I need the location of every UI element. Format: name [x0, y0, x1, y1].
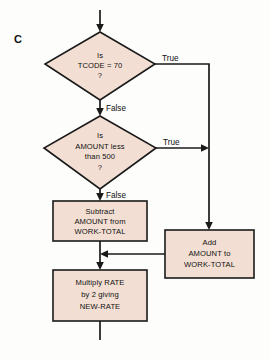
decision-amount-line-4: ? — [98, 163, 102, 172]
decision-amount-line-1: Is — [97, 131, 103, 140]
process-multiply-line-2: by 2 giving — [81, 290, 118, 299]
node-decision-tcode[interactable]: Is TCODE = 70 ? — [45, 32, 155, 100]
edge-label-tcode-false: False — [106, 104, 126, 113]
connector-bus-to-add — [205, 140, 213, 230]
node-process-multiply[interactable]: Multiply RATE by 2 giving NEW-RATE — [53, 270, 147, 321]
edge-label-amount-false: False — [106, 191, 126, 200]
process-multiply-line-1: Multiply RATE — [76, 278, 125, 287]
edge-label-amount-true: True — [163, 138, 180, 147]
decision-amount-line-2: AMOUNT less — [75, 142, 125, 151]
connector-subtract-down — [96, 241, 104, 270]
connector-tcode-false — [96, 100, 104, 116]
decision-amount-line-3: than 500 — [85, 152, 115, 161]
flowchart-diagram: Is TCODE = 70 ? Is AMOUNT less than 500 … — [0, 0, 270, 359]
flowchart-canvas: Is TCODE = 70 ? Is AMOUNT less than 500 … — [0, 0, 270, 359]
panel-label: C — [14, 33, 22, 45]
process-add-line-2: AMOUNT to — [188, 249, 230, 258]
process-add-line-3: WORK-TOTAL — [184, 260, 235, 269]
connector-entry — [96, 10, 104, 32]
process-add-line-1: Add — [203, 238, 217, 247]
process-subtract-line-1: Subtract — [85, 207, 115, 216]
decision-tcode-line-1: Is — [97, 51, 103, 60]
edge-label-tcode-true: True — [162, 54, 179, 63]
process-multiply-line-3: NEW-RATE — [80, 302, 121, 311]
node-process-subtract[interactable]: Subtract AMOUNT from WORK-TOTAL — [53, 201, 147, 241]
decision-tcode-line-2: TCODE = 70 — [78, 61, 123, 70]
connector-amount-false — [96, 189, 104, 201]
connector-add-to-trunk — [100, 250, 165, 258]
node-decision-amount[interactable]: Is AMOUNT less than 500 ? — [44, 116, 156, 189]
node-process-add[interactable]: Add AMOUNT to WORK-TOTAL — [165, 230, 254, 278]
process-subtract-line-2: AMOUNT from — [74, 217, 125, 226]
connector-tcode-true — [155, 64, 209, 140]
process-subtract-line-3: WORK-TOTAL — [75, 227, 126, 236]
decision-tcode-line-3: ? — [98, 71, 102, 80]
